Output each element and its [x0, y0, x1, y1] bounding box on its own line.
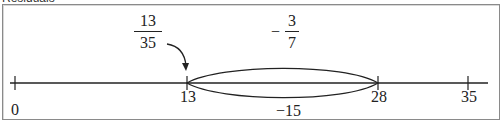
- fraction-left: 13 35: [134, 13, 162, 51]
- fraction-right-sign: −: [271, 24, 280, 40]
- tick-label-35: 35: [461, 89, 477, 105]
- tick-label-13: 13: [180, 89, 196, 105]
- fraction-right: 3 7: [285, 13, 299, 51]
- curved-arrow-icon: [167, 44, 186, 66]
- interval-label: −15: [276, 103, 301, 119]
- fraction-left-numerator: 13: [134, 13, 162, 31]
- fraction-right-denominator: 7: [285, 32, 299, 51]
- tick-label-28: 28: [371, 89, 387, 105]
- fraction-left-denominator: 35: [134, 32, 162, 51]
- fraction-right-numerator: 3: [285, 13, 299, 31]
- tick-label-0: 0: [11, 102, 19, 118]
- arrowhead-icon: [182, 63, 189, 71]
- number-line-diagram: [0, 0, 504, 122]
